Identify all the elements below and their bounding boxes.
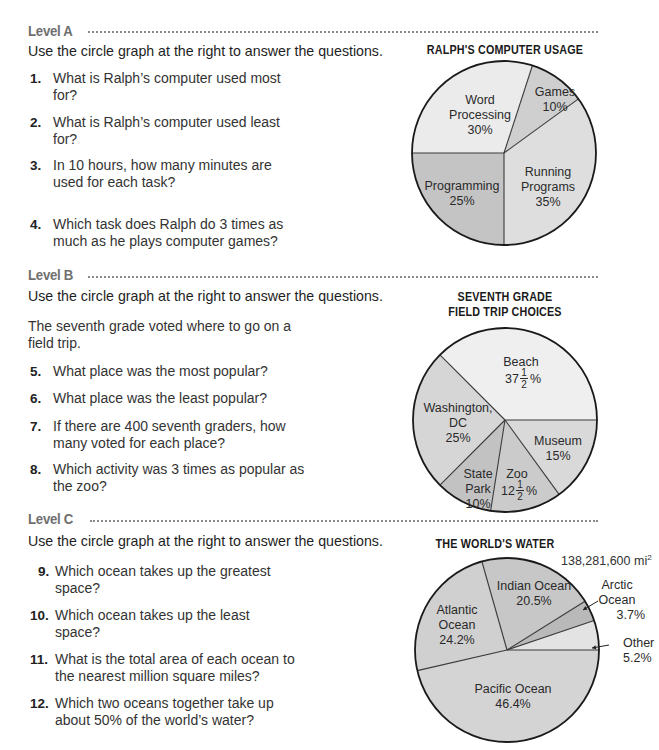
svg-text:5.2%: 5.2%	[623, 651, 652, 665]
slice-label-arctic-ocean: ArcticOcean3.7%	[599, 578, 645, 622]
chart-c-pie: Pacific Ocean46.4%AtlanticOcean24.2%Indi…	[0, 0, 659, 750]
svg-text:Arctic: Arctic	[601, 578, 632, 592]
svg-text:46.4%: 46.4%	[495, 697, 530, 711]
slice-label-atlantic-ocean: AtlanticOcean24.2%	[437, 603, 478, 647]
svg-text:Ocean: Ocean	[439, 618, 476, 632]
svg-text:Atlantic: Atlantic	[437, 603, 478, 617]
svg-text:Indian Ocean: Indian Ocean	[497, 579, 571, 593]
svg-text:3.7%: 3.7%	[617, 608, 646, 622]
svg-text:Ocean: Ocean	[599, 593, 636, 607]
svg-text:24.2%: 24.2%	[439, 633, 474, 647]
slice-label-other: Other5.2%	[623, 636, 654, 665]
svg-text:Pacific Ocean: Pacific Ocean	[474, 682, 551, 696]
svg-text:20.5%: 20.5%	[516, 594, 551, 608]
svg-text:Other: Other	[623, 636, 654, 650]
